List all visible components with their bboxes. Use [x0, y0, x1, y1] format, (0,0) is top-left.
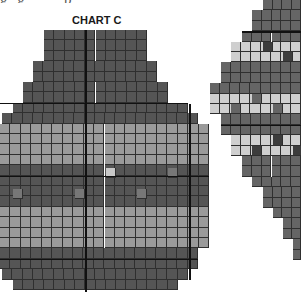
- right-chart-cell: [273, 198, 283, 208]
- right-chart-cell: [291, 177, 301, 187]
- right-chart-cell: [261, 83, 271, 93]
- right-chart-cell: [261, 114, 271, 124]
- right-chart-cell: [250, 83, 260, 93]
- right-chart-cell: [281, 31, 291, 41]
- right-chart-cell: [220, 83, 230, 93]
- right-chart-cell: [240, 94, 250, 104]
- right-chart-cell: [221, 73, 231, 83]
- right-chart-cell: [271, 146, 281, 156]
- right-chart-cell: [271, 73, 281, 83]
- right-chart-cell: [292, 208, 301, 218]
- right-chart-cell: [220, 104, 230, 114]
- right-chart-cell: [281, 42, 291, 52]
- right-chart-cell: [252, 166, 262, 176]
- right-chart-cell: [281, 166, 291, 176]
- right-chart-cell: [262, 166, 272, 176]
- adjacent-chart-grid: [0, 0, 301, 292]
- right-chart-cell: [251, 42, 261, 52]
- right-chart-cell: [220, 94, 230, 104]
- right-chart-cell: [291, 156, 301, 166]
- right-chart-cell: [281, 83, 291, 93]
- right-chart-cell: [272, 156, 282, 166]
- right-chart-cell: [242, 166, 252, 176]
- right-chart-cell: [272, 10, 282, 20]
- right-chart-cell: [221, 125, 231, 135]
- right-chart-cell: [262, 21, 272, 31]
- right-chart-cell: [240, 104, 250, 114]
- right-chart-cell: [262, 156, 272, 166]
- right-chart-cell: [251, 73, 261, 83]
- right-chart-cell: [252, 156, 262, 166]
- right-chart-marked-cell: [252, 146, 262, 156]
- right-chart-cell: [281, 114, 291, 124]
- right-chart-cell: [261, 104, 271, 114]
- right-chart-cell: [210, 83, 220, 93]
- right-chart-cell: [262, 31, 272, 41]
- right-chart-cell: [272, 177, 282, 187]
- right-chart-cell: [251, 125, 261, 135]
- right-chart-cell: [261, 62, 271, 72]
- right-chart-cell: [271, 52, 281, 62]
- right-chart-cell: [271, 62, 281, 72]
- right-chart-divider-line: [221, 125, 301, 127]
- right-chart-cell: [292, 198, 302, 208]
- right-chart-cell: [261, 135, 271, 145]
- right-chart-cell: [292, 218, 301, 228]
- right-chart-cell: [251, 52, 261, 62]
- right-chart-cell: [283, 229, 292, 239]
- right-chart-cell: [231, 135, 241, 145]
- right-chart-cell: [291, 31, 301, 41]
- right-chart-cell: [271, 83, 281, 93]
- right-chart-cell: [251, 62, 261, 72]
- right-chart-cell: [263, 198, 273, 208]
- right-chart-cell: [281, 177, 291, 187]
- right-chart-cell: [230, 83, 240, 93]
- right-chart-cell: [281, 146, 291, 156]
- right-chart-marked-cell: [231, 104, 241, 114]
- right-chart-cell: [241, 52, 251, 62]
- right-chart-cell: [231, 73, 241, 83]
- right-chart-cell: [273, 0, 283, 10]
- right-chart-cell: [271, 114, 281, 124]
- right-chart-cell: [282, 187, 292, 197]
- right-chart-cell: [292, 187, 302, 197]
- right-chart-cell: [261, 125, 271, 135]
- right-chart-cell: [240, 83, 250, 93]
- right-chart-cell: [292, 229, 301, 239]
- right-chart-marked-cell: [273, 104, 283, 114]
- right-chart-cell: [263, 0, 273, 10]
- right-chart-cell: [252, 10, 262, 20]
- right-chart-cell: [252, 21, 262, 31]
- right-chart-cell: [291, 135, 301, 145]
- right-chart-marked-cell: [273, 135, 283, 145]
- right-chart-cell: [241, 146, 251, 156]
- right-chart-cell: [250, 104, 260, 114]
- right-chart-cell: [231, 52, 241, 62]
- right-chart-cell: [262, 177, 272, 187]
- right-chart-cell: [230, 94, 240, 104]
- right-chart-cell: [291, 21, 301, 31]
- right-chart-cell: [293, 250, 301, 260]
- right-chart-cell: [271, 94, 281, 104]
- right-chart-cell: [231, 146, 241, 156]
- right-chart-marked-cell: [263, 42, 273, 52]
- right-chart-marked-cell: [283, 52, 293, 62]
- right-chart-cell: [291, 83, 301, 93]
- right-chart-cell: [231, 114, 241, 124]
- right-chart-cell: [272, 166, 282, 176]
- right-chart-marked-cell: [252, 94, 262, 104]
- right-chart-cell: [281, 62, 291, 72]
- right-chart-cell: [252, 31, 262, 41]
- right-chart-cell: [291, 42, 301, 52]
- right-chart-cell: [291, 62, 301, 72]
- right-chart-cell: [283, 218, 292, 228]
- right-chart-cell: [251, 135, 261, 145]
- right-chart-cell: [281, 73, 291, 83]
- right-chart-cell: [291, 104, 301, 114]
- right-chart-cell: [241, 114, 251, 124]
- right-chart-cell: [282, 208, 291, 218]
- right-chart-cell: [291, 166, 301, 176]
- right-chart-cell: [241, 73, 251, 83]
- right-chart-cell: [231, 42, 241, 52]
- right-chart-cell: [221, 114, 231, 124]
